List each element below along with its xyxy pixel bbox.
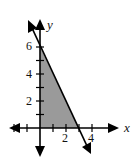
y-axis-up-arrow-icon bbox=[35, 19, 45, 30]
x-tick-label-4: 4 bbox=[88, 132, 94, 144]
x-axis-label: x bbox=[124, 121, 130, 134]
y-tick-label-4: 4 bbox=[26, 68, 32, 80]
y-axis-label: y bbox=[47, 18, 53, 31]
x-axis-right-arrow-icon bbox=[108, 123, 119, 133]
y-tick-label-6: 6 bbox=[26, 40, 32, 52]
y-tick-label-2: 2 bbox=[26, 95, 32, 107]
x-tick-label-2: 2 bbox=[62, 132, 68, 144]
graph-plot bbox=[0, 0, 138, 168]
y-axis-down-arrow-icon bbox=[35, 146, 45, 157]
